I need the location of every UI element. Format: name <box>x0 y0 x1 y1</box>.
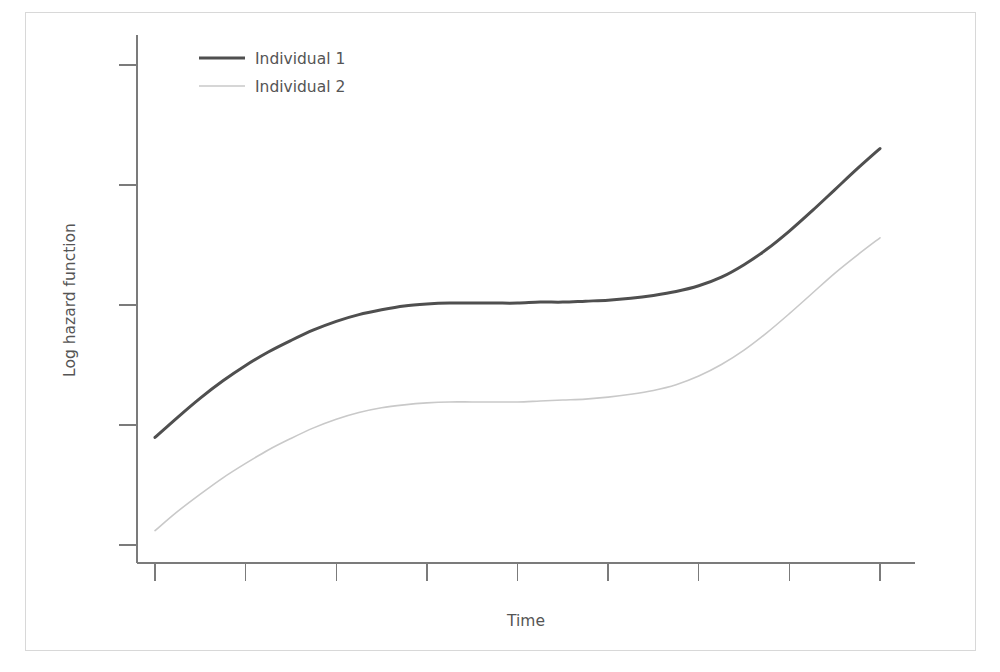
figure-root: Individual 1 Individual 2 Time Log hazar… <box>0 0 1000 672</box>
legend: Individual 1 Individual 2 <box>199 50 345 96</box>
y-axis-label: Log hazard function <box>61 223 79 377</box>
x-axis-ticks <box>155 563 880 581</box>
data-curves <box>155 149 880 531</box>
x-axis-label: Time <box>506 612 545 630</box>
y-axis-ticks <box>119 65 137 545</box>
legend-label-individual-1: Individual 1 <box>255 50 345 68</box>
curve-individual-1 <box>155 149 880 438</box>
axis-group <box>137 35 915 563</box>
chart-canvas: Individual 1 Individual 2 Time Log hazar… <box>0 0 1000 672</box>
legend-label-individual-2: Individual 2 <box>255 78 345 96</box>
curve-individual-2 <box>155 238 880 531</box>
